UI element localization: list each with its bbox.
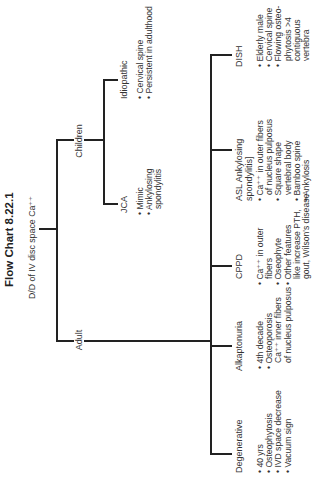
idiopathic-bullets: • Cervical spine • Persistent in adultho… [136,6,154,99]
adult-label: Adult [74,322,84,358]
asl-label: ASL Ankylosing spondylitis] [235,139,254,201]
jca-bullets: • Mimic • Ankylosing spondylitis [136,169,164,215]
main-split-line [56,140,58,342]
asl-label-line2: spondylitis] [245,139,255,201]
cppd-bullets: • Ca⁺⁺ in outer fibers • Oseophyte • Oth… [256,194,311,285]
degenerative-stub [210,453,232,455]
root-connector [39,228,57,230]
asl-bullets: • Ca⁺⁺ in outer fibers of nucleus pulpos… [256,119,311,201]
children-label: Children [74,119,84,163]
cppd-label: CPPD [235,254,244,279]
dish-bullets: • Elderly male • Cervical spine • Flowin… [256,6,311,67]
cppd-stub [210,265,232,267]
alkaptonuria-bullets: • 4th decade • Osteoporosis Ca⁺⁺ inner f… [256,287,293,369]
jca-bullet: spondylitis [154,169,163,215]
idiopathic-label: Idiopathic [120,60,129,99]
cppd-bullet: gout, Wilson's disease [302,194,311,285]
root-label: D/D of IV disc space Ca⁺⁺ [28,196,37,299]
alkaptonuria-label: Alkaptonuria [235,321,244,371]
asl-stub [210,149,232,151]
degenerative-label: Degenerative [235,419,244,473]
degenerative-bullet: • Vacuum sign [284,390,293,473]
flowchart-frame: Flow Chart 8.22.1 D/D of IV disc space C… [0,0,332,477]
dish-bullet: vertebra [302,6,311,67]
adult-split-line [210,55,212,455]
figure-title: Flow Chart 8.22.1 [3,192,15,287]
alkaptonuria-stub [210,345,232,347]
asl-bullet: • Ankylosis [302,119,311,201]
degenerative-bullets: • 40 yrs • Osteophytosis • IVD space dec… [256,390,293,473]
idiopathic-bullet: • Persistent in adulthood [145,6,154,99]
alkaptonuria-bullet: of nucleus pulposus [284,287,293,369]
flowchart-canvas: Flow Chart 8.22.1 D/D of IV disc space C… [0,0,332,477]
dish-stub [210,54,232,56]
children-split-line [103,80,105,205]
dish-label: DISH [235,45,244,67]
jca-stub [103,203,118,205]
idiopathic-stub [103,79,118,81]
jca-label: JCA [120,196,129,213]
